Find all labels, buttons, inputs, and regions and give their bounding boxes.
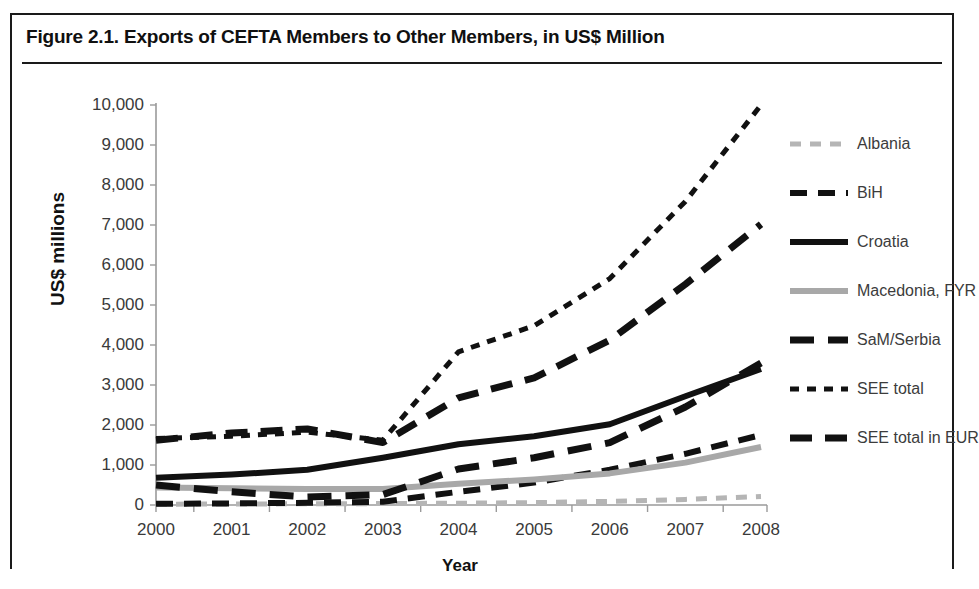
x-tick-label: 2000 bbox=[124, 521, 188, 538]
legend-swatch-icon bbox=[790, 235, 848, 249]
x-tick-label: 2002 bbox=[275, 521, 339, 538]
legend-swatch-icon bbox=[790, 382, 848, 396]
y-tick-label: 7,000 bbox=[52, 216, 144, 233]
legend-label: SaM/Serbia bbox=[857, 331, 941, 349]
legend-swatch-icon bbox=[790, 284, 848, 298]
legend-swatch-icon bbox=[790, 431, 848, 445]
legend-item[interactable]: Croatia bbox=[790, 231, 909, 253]
legend-label: Albania bbox=[857, 135, 910, 153]
legend-item[interactable]: SEE total in EUR bbox=[790, 427, 979, 449]
legend-label: SEE total in EUR bbox=[857, 429, 979, 447]
legend-label: BiH bbox=[857, 184, 883, 202]
legend-item[interactable]: SEE total bbox=[790, 378, 924, 400]
legend-swatch-icon bbox=[790, 333, 848, 347]
legend-label: Macedonia, FYR bbox=[857, 282, 976, 300]
legend-item[interactable]: BiH bbox=[790, 182, 883, 204]
y-tick-label: 5,000 bbox=[52, 296, 144, 313]
x-tick-label: 2005 bbox=[502, 521, 566, 538]
y-tick-label: 10,000 bbox=[52, 96, 144, 113]
legend-item[interactable]: Macedonia, FYR bbox=[790, 280, 976, 302]
legend-label: SEE total bbox=[857, 380, 924, 398]
series-line bbox=[156, 105, 761, 440]
legend-item[interactable]: Albania bbox=[790, 133, 910, 155]
legend-swatch-icon bbox=[790, 186, 848, 200]
x-tick-label: 2001 bbox=[200, 521, 264, 538]
y-tick-label: 9,000 bbox=[52, 136, 144, 153]
y-tick-label: 6,000 bbox=[52, 256, 144, 273]
x-tick-label: 2008 bbox=[729, 521, 793, 538]
series-line bbox=[156, 369, 761, 478]
y-tick-label: 0 bbox=[52, 496, 144, 513]
x-tick-label: 2007 bbox=[653, 521, 717, 538]
y-tick-label: 8,000 bbox=[52, 176, 144, 193]
y-tick-label: 4,000 bbox=[52, 336, 144, 353]
x-tick-label: 2003 bbox=[351, 521, 415, 538]
y-tick-label: 2,000 bbox=[52, 416, 144, 433]
y-tick-label: 1,000 bbox=[52, 456, 144, 473]
series-line bbox=[156, 224, 761, 442]
x-tick-label: 2004 bbox=[427, 521, 491, 538]
legend-label: Croatia bbox=[857, 233, 909, 251]
y-tick-label: 3,000 bbox=[52, 376, 144, 393]
x-tick-label: 2006 bbox=[578, 521, 642, 538]
legend-item[interactable]: SaM/Serbia bbox=[790, 329, 941, 351]
axes bbox=[150, 103, 767, 512]
x-axis-title: Year bbox=[155, 556, 765, 576]
legend-swatch-icon bbox=[790, 137, 848, 151]
